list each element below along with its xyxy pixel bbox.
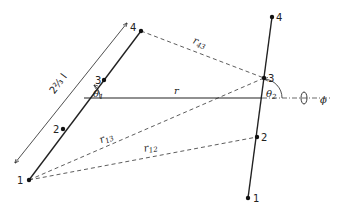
right-label-2: 2 [261, 132, 267, 143]
left-label-2: 2 [53, 124, 59, 135]
r12-label: r12 [143, 140, 159, 155]
right-point-1 [246, 196, 250, 200]
separation-label: r [174, 85, 180, 96]
left-label-4: 4 [130, 22, 136, 33]
left-point-3 [102, 78, 106, 82]
r43-label: r43 [191, 35, 209, 52]
right-rod [248, 17, 272, 198]
left-label-3: 3 [95, 75, 101, 86]
left-rod [29, 31, 141, 180]
right-label-3: 3 [268, 73, 274, 84]
right-point-3 [262, 76, 266, 80]
left-point-1 [27, 178, 31, 182]
r43-dashed-line [141, 31, 264, 78]
left-point-2 [61, 127, 65, 131]
right-point-4 [270, 15, 274, 19]
phi-label: ϕ [320, 94, 327, 105]
left-point-4 [139, 29, 143, 33]
right-label-1: 1 [253, 193, 259, 204]
r13-label: r13 [98, 130, 116, 147]
right-point-2 [255, 135, 259, 139]
molecular-geometry-diagram: 2⅔ l 1 2 3 4 1 2 3 4 r θ1 θ2 ϕ r43 r13 r… [0, 0, 343, 209]
left-label-1: 1 [17, 175, 23, 186]
theta2-label: θ2 [266, 88, 277, 101]
right-label-4: 4 [276, 12, 282, 23]
theta1-label: θ1 [93, 88, 104, 101]
